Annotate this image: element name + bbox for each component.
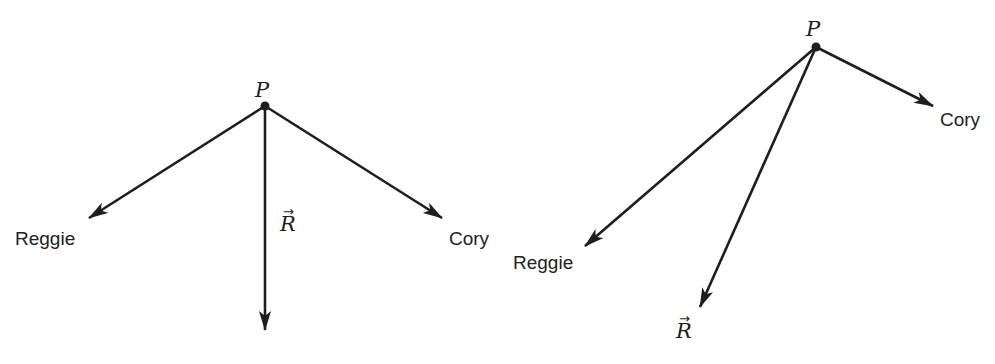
left-point-p-label: P: [255, 80, 269, 101]
vector-arrow-icon: →: [679, 312, 690, 325]
right-point-p-dot: [812, 43, 821, 52]
right-cory-label: Cory: [940, 110, 980, 129]
left-cory-vector: [265, 106, 442, 218]
left-reggie-label: Reggie: [15, 229, 75, 248]
left-reggie-vector: [89, 106, 265, 218]
left-cory-label: Cory: [449, 229, 489, 248]
right-reggie-vector: [585, 47, 816, 246]
right-cory-vector: [816, 47, 933, 106]
right-figure: [585, 43, 933, 308]
right-point-p-label: P: [806, 19, 820, 40]
left-resultant-label: → R: [280, 214, 296, 235]
right-reggie-label: Reggie: [513, 253, 573, 272]
right-resultant-label: → R: [676, 321, 692, 342]
left-figure: [89, 102, 442, 331]
left-point-p-dot: [261, 102, 270, 111]
vector-arrow-icon: →: [283, 205, 294, 218]
right-resultant-vector: [700, 47, 816, 307]
vector-diagram-canvas: [0, 0, 995, 364]
